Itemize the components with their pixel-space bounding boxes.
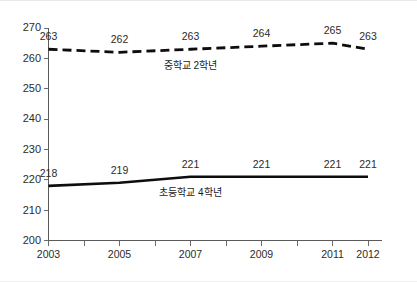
y-tick-label: 260: [23, 52, 41, 64]
series-line-0: [49, 43, 369, 52]
y-tick-label: 240: [23, 112, 41, 124]
x-tick-label: 2005: [108, 248, 132, 260]
point-label: 219: [111, 164, 129, 176]
y-tick-label: 270: [23, 21, 41, 33]
point-label: 264: [253, 27, 271, 39]
series-name-label: 중학교 2학년: [164, 60, 217, 71]
point-label: 263: [40, 30, 58, 42]
point-label: 265: [324, 24, 342, 36]
point-label: 263: [359, 30, 377, 42]
y-tick-label: 230: [23, 143, 41, 155]
x-tick-label: 2003: [37, 248, 61, 260]
point-label: 221: [324, 158, 342, 170]
y-tick-label: 210: [23, 204, 41, 216]
point-label: 262: [111, 33, 129, 45]
chart-plot-area: 200210220230240250260270 200320052007200…: [0, 0, 417, 282]
y-axis-tick-labels: 200210220230240250260270: [23, 21, 41, 246]
point-label: 221: [253, 158, 271, 170]
x-axis-tick-labels: 200320052007200920112012: [37, 248, 380, 260]
y-axis-ticks: [44, 28, 49, 241]
point-label: 263: [182, 30, 200, 42]
line-chart: 200210220230240250260270 200320052007200…: [0, 0, 417, 282]
y-tick-label: 220: [23, 173, 41, 185]
x-axis-ticks: [49, 241, 369, 246]
y-tick-label: 250: [23, 82, 41, 94]
x-tick-label: 2009: [250, 248, 274, 260]
series-line-1: [49, 177, 369, 186]
point-label: 221: [182, 158, 200, 170]
point-label: 221: [359, 158, 377, 170]
y-tick-label: 200: [23, 234, 41, 246]
point-label: 218: [40, 167, 58, 179]
x-tick-label: 2007: [179, 248, 203, 260]
x-tick-label: 2012: [356, 248, 380, 260]
x-tick-label: 2011: [321, 248, 344, 260]
series-name-label: 초등학교 4학년: [159, 187, 221, 198]
